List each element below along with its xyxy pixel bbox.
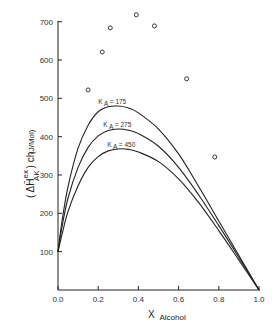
x-tick-label: 0.0 bbox=[52, 295, 64, 304]
x-tick-label: 0.4 bbox=[133, 295, 145, 304]
y-tick-label: 200 bbox=[40, 209, 54, 218]
data-point bbox=[152, 24, 156, 28]
x-tick-label: 0.6 bbox=[173, 295, 185, 304]
curves: K A = 175K A = 275K A = 450 bbox=[58, 98, 259, 290]
curve-450 bbox=[58, 149, 259, 290]
y-ticks: 100200300400500600700 bbox=[40, 18, 62, 257]
data-point bbox=[86, 88, 90, 92]
y-axis-title-main: ( ΔH̄exAK) ch bbox=[21, 152, 41, 198]
y-tick-label: 500 bbox=[40, 94, 54, 103]
data-point bbox=[213, 155, 217, 159]
y-tick-label: 600 bbox=[40, 56, 54, 65]
y-tick-label: 700 bbox=[40, 18, 54, 27]
data-point bbox=[100, 50, 104, 54]
y-tick-label: 100 bbox=[40, 248, 54, 257]
data-point bbox=[185, 77, 189, 81]
curve-275 bbox=[58, 129, 259, 290]
data-point bbox=[108, 26, 112, 30]
x-tick-label: 0.8 bbox=[213, 295, 225, 304]
curve-label: K A = 275 bbox=[103, 121, 131, 130]
data-point bbox=[134, 13, 138, 17]
y-axis-units: (J/Mol) bbox=[27, 129, 36, 154]
x-axis-title: X Alcohol bbox=[148, 309, 186, 322]
axes: 100200300400500600700 0.00.20.40.60.81.0 bbox=[40, 18, 265, 304]
chart: 100200300400500600700 0.00.20.40.60.81.0… bbox=[0, 0, 276, 329]
curve-175 bbox=[58, 106, 259, 290]
x-tick-label: 0.2 bbox=[93, 295, 105, 304]
y-axis-title: ( ΔH̄exAK) ch (J/Mol) bbox=[21, 129, 41, 198]
data-points bbox=[86, 13, 217, 159]
y-tick-label: 400 bbox=[40, 133, 54, 142]
x-tick-label: 1.0 bbox=[253, 295, 265, 304]
x-ticks: 0.00.20.40.60.81.0 bbox=[52, 286, 265, 304]
y-tick-label: 300 bbox=[40, 171, 54, 180]
curve-label: K A = 175 bbox=[98, 98, 126, 107]
